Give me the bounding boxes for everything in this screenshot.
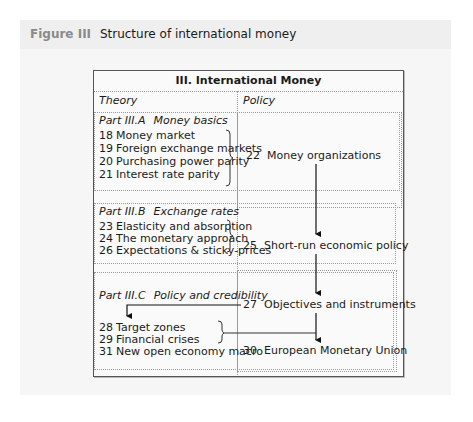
brace-part-a	[226, 130, 233, 186]
brace-part-b	[227, 220, 233, 252]
arrow-27-to-28	[127, 305, 241, 316]
connectors	[0, 0, 473, 422]
brace-part-c	[218, 321, 224, 343]
